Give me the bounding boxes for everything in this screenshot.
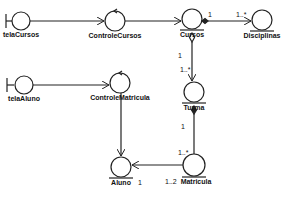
mult-matr-aluno-tgt: 1: [138, 179, 142, 186]
mult-cursos-turma-src: 1: [178, 52, 182, 59]
node-label-telaCursos: telaCursos: [3, 31, 39, 38]
boundary-icon-telaCursos: [6, 12, 30, 30]
mult-cursos-disc-tgt: 1..*: [236, 11, 247, 18]
entity-icon-Matricula: [182, 154, 206, 177]
entity-icon-Turma: [182, 82, 206, 103]
node-label-Aluno: Aluno: [111, 179, 131, 186]
control-icon-ControleCursos: [105, 9, 125, 31]
mult-cursos-disc-src: 1: [208, 11, 212, 18]
mult-turma-matr-tgt: 1..*: [178, 149, 189, 156]
boundary-icon-telaAluno: [7, 76, 33, 94]
mult-turma-matr-src: 1: [181, 123, 185, 130]
entity-icon-Disciplinas: [250, 10, 274, 31]
node-label-Turma: Turma: [184, 104, 205, 111]
mult-matr-aluno-src: 1..2: [165, 178, 177, 185]
node-label-Disciplinas: Disciplinas: [244, 32, 281, 39]
composition-diamond-icon: [202, 19, 208, 24]
control-icon-ControleMatricula: [110, 71, 130, 93]
node-label-Matricula: Matricula: [181, 178, 212, 185]
node-label-telaAluno: telaAluno: [8, 95, 40, 102]
entity-icon-Cursos: [180, 9, 204, 30]
node-label-ControleCursos: ControleCursos: [89, 32, 142, 39]
entity-icon-Aluno: [109, 157, 133, 178]
mult-cursos-turma-tgt: 1..*: [180, 66, 191, 73]
node-label-Cursos: Cursos: [180, 31, 204, 38]
node-label-ControleMatricula: ControleMatricula: [90, 94, 150, 101]
